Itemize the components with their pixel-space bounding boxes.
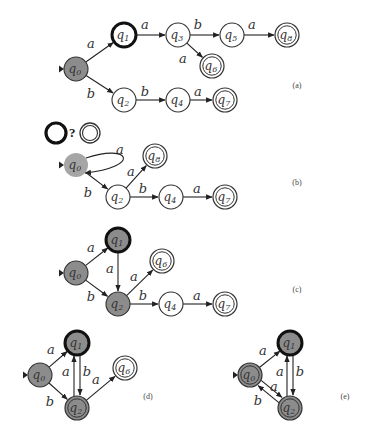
edge-label: b xyxy=(254,393,262,408)
state-a-q3: q3 xyxy=(166,23,190,47)
edge-label: a xyxy=(47,342,55,357)
panel-label-a: (a) xyxy=(293,81,302,90)
edge-label: b xyxy=(46,394,54,409)
edge-label: b xyxy=(139,181,147,196)
legend-question-mark: ? xyxy=(69,125,76,140)
panel-label-d: (d) xyxy=(143,392,153,401)
edge-label: a xyxy=(179,51,187,66)
edge-label: a xyxy=(270,379,278,394)
edge-label: a xyxy=(193,288,201,303)
state-a-q0: q0 xyxy=(59,57,88,81)
state-a-q8: q8 xyxy=(275,23,299,47)
state-e-q1: q1 xyxy=(278,331,302,355)
edge-label: a xyxy=(87,240,95,255)
state-d-q0: q0 xyxy=(23,363,52,387)
labels-layer: aabaabba(a)ababa(b)aababa(c)aabba(d)aaba… xyxy=(46,17,350,409)
edge-label: b xyxy=(194,17,202,32)
edge-label: a xyxy=(87,36,95,51)
edge-label: b xyxy=(139,288,147,303)
state-c-q4: q4 xyxy=(159,292,183,316)
panel-label-b: (b) xyxy=(292,178,302,187)
initial-state-arrow-icon xyxy=(233,372,238,379)
initial-state-arrow-icon xyxy=(59,270,64,277)
edge-label: b xyxy=(87,289,95,304)
state-b-q7: q7 xyxy=(213,185,237,209)
edge-label: a xyxy=(259,343,267,358)
state-a-q7: q7 xyxy=(213,88,237,112)
initial-state-arrow-icon xyxy=(59,162,64,169)
state-a-q1: q1 xyxy=(112,23,136,47)
edge-label: a xyxy=(141,17,149,32)
automata-figure: ? q0q1q3q5q8q6q2q4q7q0q8q2q4q7q0q1q6q2q4… xyxy=(0,0,366,441)
edge-d-q2-q6 xyxy=(86,376,115,400)
automata-diagram-canvas: ? q0q1q3q5q8q6q2q4q7q0q8q2q4q7q0q1q6q2q4… xyxy=(0,0,366,441)
state-e-q2: q2 xyxy=(278,396,302,420)
edge-label: a xyxy=(194,84,202,99)
edge-label: b xyxy=(296,364,304,379)
state-c-q7: q7 xyxy=(213,292,237,316)
initial-state-arrow-icon xyxy=(23,372,28,379)
edge-label: a xyxy=(62,364,70,379)
state-b-q4: q4 xyxy=(159,185,183,209)
edge-label: a xyxy=(92,372,100,387)
state-a-q6: q6 xyxy=(200,54,224,78)
state-b-q8: q8 xyxy=(143,144,167,168)
state-d-q2: q2 xyxy=(65,396,89,420)
state-d-q6: q6 xyxy=(113,356,137,380)
legend: ? xyxy=(46,123,100,143)
edge-label: b xyxy=(141,84,149,99)
panel-label-e: (e) xyxy=(341,392,350,401)
edge-label: b xyxy=(84,185,92,200)
state-a-q2: q2 xyxy=(112,88,136,112)
edge-label: a xyxy=(276,364,284,379)
state-a-q4: q4 xyxy=(166,88,190,112)
state-a-q5: q5 xyxy=(220,23,244,47)
initial-state-arrow-icon xyxy=(59,66,64,73)
legend-thick-circle-icon xyxy=(46,123,66,143)
state-c-q1: q1 xyxy=(106,228,130,252)
panel-label-c: (c) xyxy=(293,285,302,294)
edge-a-q3-q6 xyxy=(187,43,203,57)
edge-label: a xyxy=(130,269,138,284)
state-c-q0: q0 xyxy=(59,261,88,285)
state-c-q2: q2 xyxy=(106,292,130,316)
state-e-q0: q0 xyxy=(233,363,262,387)
edge-label: b xyxy=(87,86,95,101)
edge-label: a xyxy=(248,17,256,32)
edge-label: a xyxy=(116,142,124,157)
state-b-q0: q0 xyxy=(59,153,88,177)
edge-label: a xyxy=(106,261,114,276)
edge-label: a xyxy=(193,181,201,196)
edge-label: b xyxy=(83,364,91,379)
state-c-q6: q6 xyxy=(150,249,174,273)
state-d-q1: q1 xyxy=(65,331,89,355)
edge-label: a xyxy=(127,164,135,179)
state-b-q2: q2 xyxy=(106,185,130,209)
nodes-layer: q0q1q3q5q8q6q2q4q7q0q8q2q4q7q0q1q6q2q4q7… xyxy=(23,23,302,420)
